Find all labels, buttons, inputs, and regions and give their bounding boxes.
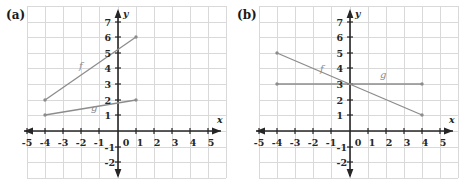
y-tick-a-m1: -1 [104,142,115,153]
x-tick-b-1: -4 [272,137,283,148]
x-tick-a-4: -1 [94,137,105,148]
y-tick-a-6: 6 [104,32,111,43]
x-axis-label-b: x [448,114,455,125]
endpoint-f-left-b [275,51,278,54]
x-tick-a-1: -4 [40,137,51,148]
y-tick-b-5: 5 [336,48,343,59]
y-axis-up-arrow-a [115,9,122,18]
panel-b-label: (b) [237,8,257,22]
y-tick-b-2: 2 [336,95,343,106]
endpoint-g-right-a [134,98,137,101]
panel-a: (a) [0,0,232,188]
x-tick-b-6: 1 [369,137,376,148]
function-label-g-a: g [91,102,97,113]
x-axis-left-arrow-a [24,128,33,135]
x-axis-label-a: x [216,114,223,125]
y-tick-a-2: 2 [104,95,111,106]
x-tick-b-4: -1 [326,137,337,148]
y-tick-b-3: 3 [336,79,343,90]
y-tick-a-4: 4 [104,63,111,74]
x-tick-a-10: 5 [208,137,215,148]
y-tick-a-7: 7 [104,17,111,28]
x-tick-a-8: 3 [172,137,179,148]
panel-a-label: (a) [6,8,25,22]
y-tick-b-4: 4 [336,63,343,74]
x-axis-right-arrow-a [212,128,221,135]
x-tick-a-2: -3 [58,137,69,148]
x-tick-b-8: 3 [404,137,411,148]
panel-b: (b) [232,0,465,188]
two-panel-graph-figure: (a) [0,0,465,188]
y-tick-a-5: 5 [104,48,111,59]
endpoint-g-right-b [420,82,423,85]
x-axis-left-arrow-b [256,128,265,135]
endpoint-g-left-b [275,82,278,85]
y-axis-label-a: y [122,8,130,19]
y-tick-b-m2: -2 [336,157,347,168]
x-tick-a-3: -2 [76,137,87,148]
x-tick-b-5: 0 [355,137,362,148]
endpoint-f-left-a [43,98,46,101]
x-tick-a-0: -5 [22,137,33,148]
x-tick-a-5: 0 [123,137,130,148]
x-tick-b-10: 5 [440,137,447,148]
y-tick-b-1: 1 [336,110,343,121]
y-tick-b-7: 7 [336,17,343,28]
y-tick-a-3: 3 [104,79,111,90]
endpoint-f-right-b [420,113,423,116]
y-tick-a-1: 1 [104,110,111,121]
x-tick-b-7: 2 [386,137,393,148]
x-tick-a-9: 4 [190,137,197,148]
panel-b-plot: f g -5 -4 -3 -2 -1 0 1 2 3 4 5 7 6 5 4 3 [259,6,459,182]
x-tick-b-9: 4 [422,137,429,148]
y-axis-up-arrow-b [347,9,354,18]
x-tick-a-7: 2 [154,137,161,148]
endpoint-f-right-a [134,35,137,38]
y-tick-b-m1: -1 [336,142,347,153]
y-tick-a-m2: -2 [104,157,115,168]
x-tick-b-0: -5 [254,137,265,148]
axes-b [256,11,453,176]
grid-lines-b [259,6,458,178]
y-axis-down-arrow-b [347,169,354,178]
x-tick-b-3: -2 [308,137,319,148]
function-label-f-a: f [78,60,85,71]
x-axis-right-arrow-b [444,128,453,135]
x-tick-a-6: 1 [137,137,144,148]
y-axis-label-b: y [354,8,362,19]
y-axis-down-arrow-a [115,169,122,178]
endpoint-g-left-a [43,113,46,116]
y-tick-b-6: 6 [336,32,343,43]
function-label-g-b: g [380,69,386,80]
panel-a-plot: f g -5 -4 -3 -2 -1 0 1 2 3 4 5 7 6 5 4 3 [27,6,227,182]
x-tick-b-2: -3 [290,137,301,148]
